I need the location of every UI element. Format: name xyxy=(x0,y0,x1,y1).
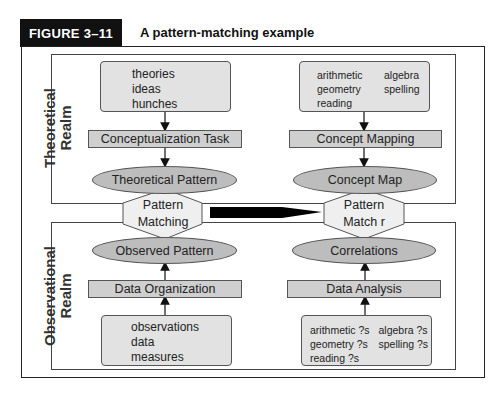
data-analysis-bar: Data Analysis xyxy=(287,280,441,298)
subjects-grid: arithmetic algebra geometry spelling rea… xyxy=(317,68,429,110)
concept-mapping-bar: Concept Mapping xyxy=(289,130,442,148)
observed-pattern-ellipse: Observed Pattern xyxy=(92,237,237,264)
subject-scores-box: arithmetic ?s algebra ?s geometry ?s spe… xyxy=(301,315,432,366)
theoretical-pattern-ellipse: Theoretical Pattern xyxy=(92,166,237,194)
observations-box: observations data measures xyxy=(101,315,232,366)
pattern-matching-label: Pattern Matching xyxy=(123,197,203,231)
pattern-match-label: Pattern Match r xyxy=(324,197,404,231)
subject-scores-grid: arithmetic ?s algebra ?s geometry ?s spe… xyxy=(310,323,431,365)
data-organization-bar: Data Organization xyxy=(88,280,242,298)
concept-map-ellipse: Concept Map xyxy=(293,166,437,194)
conceptualization-task-bar: Conceptualization Task xyxy=(88,130,242,148)
theories-box: theories ideas hunches xyxy=(100,61,231,112)
big-right-arrow-icon xyxy=(210,207,322,218)
correlations-ellipse: Correlations xyxy=(292,237,436,264)
subjects-box: arithmetic algebra geometry spelling rea… xyxy=(299,61,430,112)
